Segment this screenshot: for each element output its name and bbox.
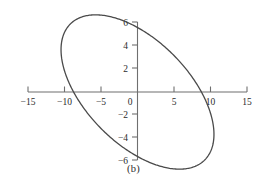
y-tick-label: −2 [118,110,128,120]
figure-panel: −15 −10 −5 0 5 10 15 6 4 2 −2 −4 −6 (b) [0,0,267,186]
x-tick-label: 5 [172,97,177,107]
y-tick-label: 2 [123,64,128,74]
x-axis-tick-labels: −15 −10 −5 0 5 10 15 [21,97,252,107]
panel-label: (b) [0,163,267,174]
x-tick-label: −5 [96,97,106,107]
ellipse-plot: −15 −10 −5 0 5 10 15 6 4 2 −2 −4 −6 [0,0,267,186]
x-tick-label-origin: 0 [128,97,133,107]
x-tick-label: −10 [57,97,72,107]
y-tick-label: 4 [123,41,128,51]
x-tick-label: −15 [21,97,36,107]
y-axis-ticks [132,22,138,160]
y-tick-label: −4 [118,133,128,143]
x-tick-label: 15 [242,97,252,107]
